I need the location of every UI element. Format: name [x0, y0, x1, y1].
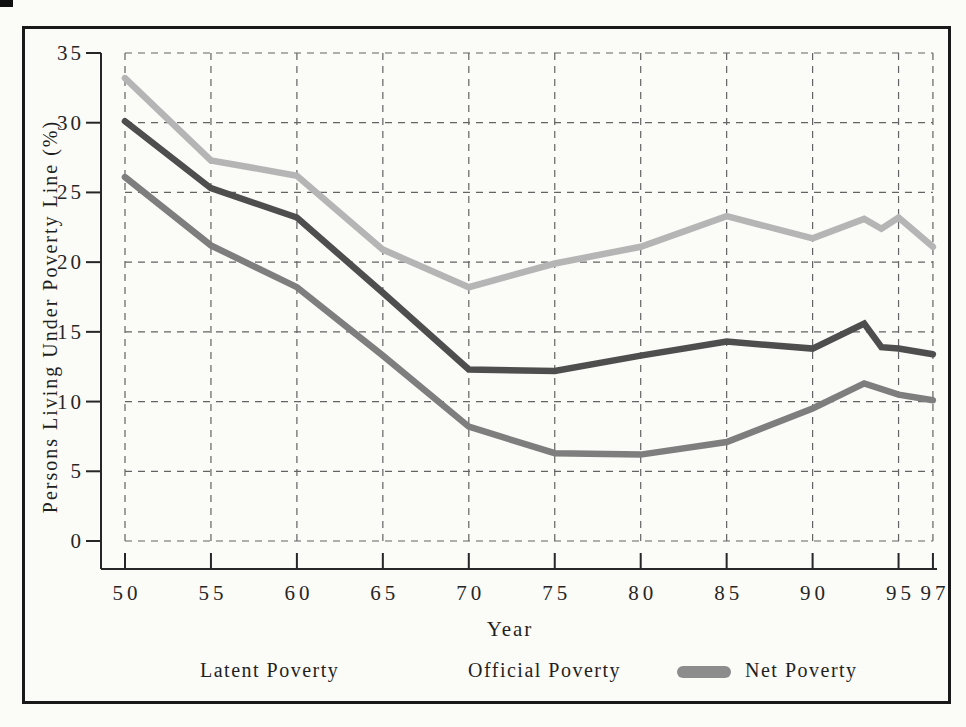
poverty-chart-page: 051015202530355055606570758085909597 Per… [0, 0, 966, 727]
x-tick-label: 97 [920, 581, 949, 605]
legend-label-net-poverty: Net Poverty [745, 659, 858, 682]
x-tick-label: 80 [628, 581, 657, 605]
net-poverty-line-swatch [677, 666, 731, 678]
net-poverty-line [125, 177, 933, 455]
y-axis-title: Persons Living Under Poverty Line (%) [39, 87, 62, 547]
x-tick-label: 65 [370, 581, 399, 605]
x-axis-title: Year [450, 617, 570, 642]
chart-legend: Latent Poverty Official Poverty Net Pove… [0, 656, 966, 690]
y-tick-label: 35 [57, 41, 84, 65]
y-tick-label: 5 [71, 459, 85, 483]
official-poverty-line [125, 121, 933, 371]
x-tick-label: 95 [886, 581, 915, 605]
y-tick-label: 0 [71, 529, 85, 553]
x-tick-label: 85 [714, 581, 743, 605]
latent-poverty-line [125, 78, 933, 287]
x-tick-label: 55 [198, 581, 227, 605]
x-tick-label: 70 [456, 581, 485, 605]
x-tick-label: 60 [284, 581, 313, 605]
x-tick-label: 90 [800, 581, 829, 605]
legend-label-official-poverty: Official Poverty [468, 659, 621, 682]
x-tick-label: 50 [113, 581, 142, 605]
legend-label-latent-poverty: Latent Poverty [200, 659, 339, 682]
x-tick-label: 75 [542, 581, 571, 605]
